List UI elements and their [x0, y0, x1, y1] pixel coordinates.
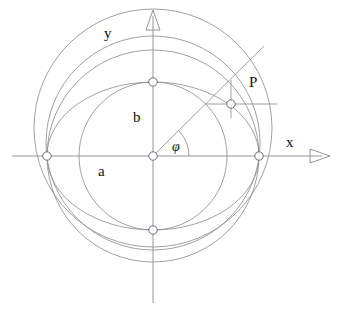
- radius-ray: [153, 46, 264, 156]
- marker-point-P: [227, 100, 235, 108]
- marker-covertex-bottom: [149, 226, 157, 234]
- angle-arc: [179, 131, 189, 156]
- geometry-drawing: [0, 0, 343, 315]
- marker-vertex-right: [255, 152, 263, 160]
- angle-phi-label: φ: [172, 140, 180, 154]
- marker-vertex-left: [43, 152, 51, 160]
- axes-group: [12, 16, 322, 303]
- x-axis-label: x: [286, 135, 294, 150]
- figure-canvas: y x b a P φ: [0, 0, 343, 315]
- marker-origin: [149, 152, 157, 160]
- y-axis-label: y: [104, 26, 112, 41]
- point-p-label: P: [249, 75, 257, 90]
- marker-covertex-top: [149, 78, 157, 86]
- semi-minor-label: b: [133, 110, 141, 125]
- semi-major-label: a: [98, 164, 105, 179]
